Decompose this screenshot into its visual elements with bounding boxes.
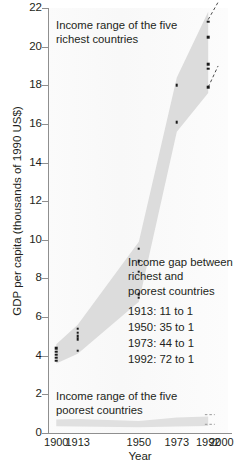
projection-dashed-line — [208, 2, 218, 19]
data-point — [55, 347, 58, 350]
richest-range-annotation: Income range of the five richest countri… — [56, 18, 177, 47]
data-point — [138, 247, 141, 250]
y-tick-mark — [42, 240, 48, 241]
y-tick-mark — [42, 317, 48, 318]
data-point — [207, 36, 210, 39]
data-point — [207, 20, 210, 23]
data-point — [76, 331, 79, 334]
data-point — [176, 84, 179, 87]
income-gap-row: 1973: 44 to 1 — [128, 337, 194, 349]
y-tick-mark — [42, 394, 48, 395]
data-point — [76, 338, 79, 341]
x-tick-label: 1973 — [165, 436, 189, 448]
chart-root: 0246810121416182022 19001913195019731992… — [0, 0, 236, 466]
y-tick-mark — [42, 278, 48, 279]
y-tick-mark — [42, 163, 48, 164]
plot-area — [48, 8, 228, 433]
x-tick-label: 1950 — [127, 436, 151, 448]
x-tick-label: 2000 — [209, 436, 233, 448]
x-axis-title: Year — [48, 450, 232, 462]
y-tick-label: 2 — [0, 387, 42, 399]
data-point — [207, 86, 210, 89]
y-tick-mark — [42, 8, 48, 9]
data-point — [207, 63, 210, 66]
y-tick-mark — [42, 433, 48, 434]
x-axis-line — [48, 433, 232, 434]
income-gap-row: 1913: 11 to 1 — [128, 305, 193, 317]
y-tick-label: 0 — [0, 426, 42, 438]
poorest-range-annotation: Income range of the five poorest countri… — [56, 389, 177, 418]
income-gap-row: 1950: 35 to 1 — [128, 321, 194, 333]
y-tick-mark — [42, 85, 48, 86]
data-point — [207, 68, 210, 71]
income-band-layer — [48, 8, 228, 433]
x-tick-label: 1913 — [65, 436, 89, 448]
y-tick-mark — [42, 47, 48, 48]
y-axis-line — [48, 8, 49, 433]
income-gap-annotation: Income gap between richest and poorest c… — [128, 255, 233, 298]
y-tick-mark — [42, 201, 48, 202]
data-point — [76, 350, 79, 353]
data-point — [76, 327, 79, 330]
data-point — [176, 121, 179, 124]
y-axis-title: GDP per capita (thousands of 1990 US$) — [11, 46, 23, 376]
projection-dashed-line — [208, 66, 218, 87]
poorest-band — [56, 417, 208, 428]
y-tick-mark — [42, 124, 48, 125]
y-tick-label: 22 — [0, 1, 42, 13]
data-point — [55, 359, 58, 362]
income-gap-row: 1992: 72 to 1 — [128, 353, 194, 365]
y-tick-mark — [42, 356, 48, 357]
